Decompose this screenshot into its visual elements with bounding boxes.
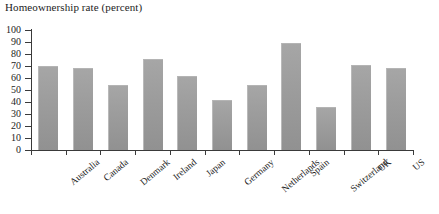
chart-title: Homeownership rate (percent) <box>5 1 142 13</box>
y-axis-tick-label: 10 <box>11 131 21 144</box>
x-axis-label-switzerland: Switzerland <box>349 157 391 195</box>
bar-japan <box>177 76 197 150</box>
y-axis-tick-label: 70 <box>11 59 21 72</box>
x-axis-label-australia: Australia <box>69 157 103 188</box>
bar-us <box>386 68 406 150</box>
x-axis-tick <box>66 150 67 155</box>
bar-netherlands <box>247 85 267 150</box>
y-axis-tick-label: 0 <box>16 143 21 156</box>
y-axis-tick-label: 80 <box>11 47 21 60</box>
x-axis-label-us: US <box>410 157 426 173</box>
y-axis-tick-label: 50 <box>11 83 21 96</box>
plot-area <box>31 30 413 150</box>
x-axis-tick <box>239 150 240 155</box>
x-axis-tick <box>135 150 136 155</box>
y-axis-tick-label: 20 <box>11 119 21 132</box>
y-axis-tick-label: 60 <box>11 71 21 84</box>
x-axis-label-canada: Canada <box>102 157 131 184</box>
x-axis-label-spain: Spain <box>309 157 333 179</box>
bar-ireland <box>143 59 163 150</box>
y-axis-tick-label: 30 <box>11 107 21 120</box>
y-axis-tick-label: 90 <box>11 35 21 48</box>
x-axis-label-netherlands: Netherlands <box>279 157 321 195</box>
x-axis-tick <box>170 150 171 155</box>
x-axis-tick <box>31 150 32 155</box>
x-axis-tick <box>274 150 275 155</box>
y-axis-tick-label: 100 <box>6 23 21 36</box>
x-axis-tick <box>100 150 101 155</box>
x-axis-tick <box>378 150 379 155</box>
x-axis-line <box>31 150 413 151</box>
bar-denmark <box>108 85 128 150</box>
bar-australia <box>38 66 58 150</box>
x-axis-label-uk: UK <box>376 157 394 174</box>
x-axis-label-ireland: Ireland <box>171 157 199 183</box>
bar-germany <box>212 100 232 150</box>
bar-uk <box>351 65 371 150</box>
bar-canada <box>73 68 93 150</box>
bar-spain <box>281 43 301 150</box>
x-axis-tick <box>344 150 345 155</box>
x-axis-tick <box>205 150 206 155</box>
x-axis-label-denmark: Denmark <box>138 157 172 188</box>
homeownership-bar-chart: Homeownership rate (percent) 01020304050… <box>0 0 439 214</box>
y-axis-tick-label: 40 <box>11 95 21 108</box>
x-axis-label-japan: Japan <box>204 157 228 179</box>
x-axis-label-germany: Germany <box>242 157 276 188</box>
bar-switzerland <box>316 107 336 150</box>
x-axis-tick <box>413 150 414 155</box>
x-axis-tick <box>309 150 310 155</box>
